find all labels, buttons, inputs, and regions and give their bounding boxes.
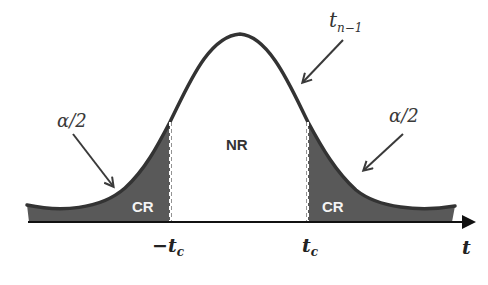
tick-base: t: [302, 234, 311, 256]
tick-base: t: [168, 234, 177, 256]
tick-subscript: c: [177, 245, 184, 259]
distribution-label: tn−1: [329, 10, 362, 34]
tick-subscript: c: [311, 245, 318, 259]
distribution-arrow: [303, 40, 343, 82]
right-alpha-arrow: [364, 134, 403, 170]
left-alpha-half-label: α/2: [57, 112, 87, 130]
minus-sign: −: [152, 234, 168, 256]
axis-arrowhead: [462, 215, 476, 229]
pos-critical-value-label: tc: [302, 236, 318, 258]
left-critical-region-label: CR: [132, 199, 154, 214]
right-critical-region-label: CR: [322, 199, 344, 214]
right-alpha-half-label: α/2: [389, 107, 419, 125]
t-distribution-diagram: CR NR CR α/2 α/2 tn−1 −tc tc t: [0, 0, 488, 285]
neg-critical-value-label: −tc: [152, 236, 184, 258]
distribution-label-base: t: [329, 8, 337, 32]
non-rejection-region-label: NR: [226, 137, 248, 152]
distribution-label-subscript: n−1: [337, 21, 362, 35]
left-alpha-arrow: [73, 134, 113, 186]
axis-label: t: [462, 238, 471, 257]
